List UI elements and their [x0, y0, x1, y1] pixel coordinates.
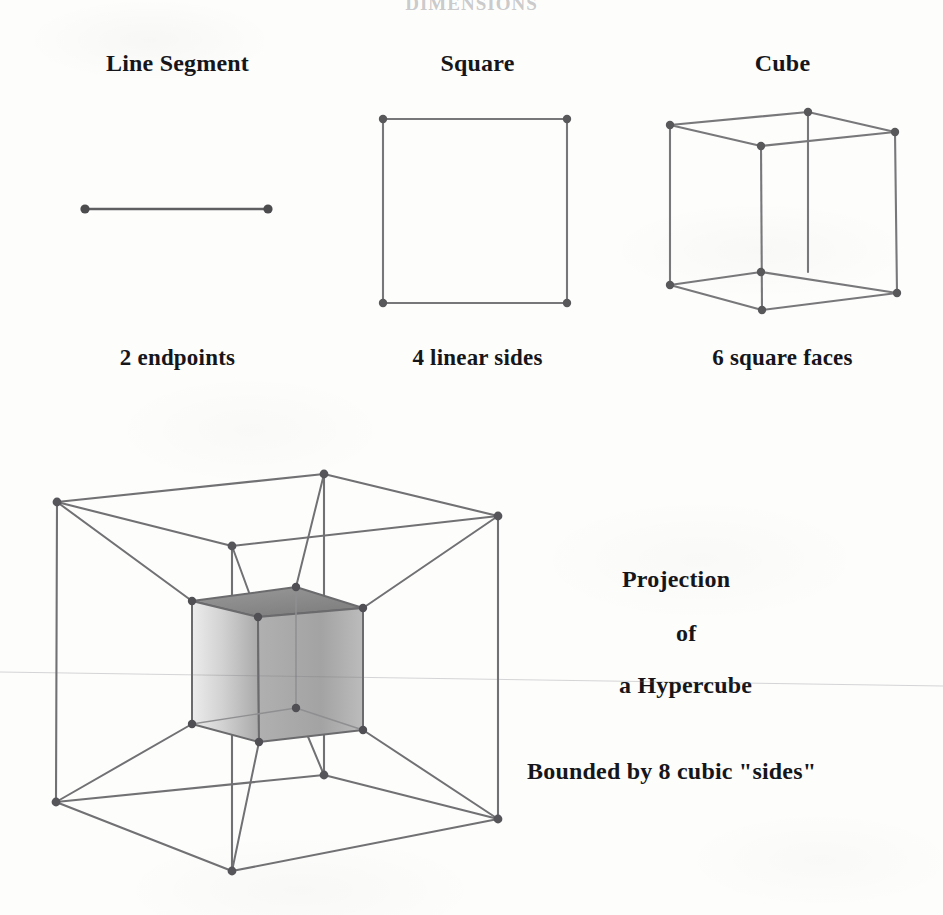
cube-edge-bottom-front-right	[762, 293, 897, 310]
vertex-dot	[563, 115, 571, 123]
cube-edge-bottom-back-right	[761, 272, 897, 293]
vertex-dot	[379, 299, 387, 307]
cube-edge-top-front-right	[761, 132, 895, 146]
hypercube-title-line-1: Projection	[622, 566, 730, 593]
heading-line-segment: Line Segment	[60, 50, 295, 77]
vertex-dot	[666, 121, 674, 129]
vertex-dot	[320, 771, 329, 780]
vertex-dot	[758, 306, 766, 314]
heading-square: Square	[360, 50, 595, 77]
outer-edge-top-front-right	[232, 516, 498, 546]
cut-off-page-title: DIMENSIONS	[0, 0, 943, 15]
vertex-dot	[80, 204, 89, 213]
cube-edge-vertical-front	[761, 146, 762, 310]
cube-edge-bottom-front-left	[670, 285, 762, 310]
vertex-dot	[53, 498, 62, 507]
hypercube-title-line-2: of	[676, 620, 696, 647]
vertex-dot	[228, 542, 237, 551]
connect-edge-bottom-right	[363, 730, 498, 819]
vertex-dot	[188, 720, 196, 728]
cube-edge-bottom-back-left	[670, 272, 761, 285]
vertex-dot	[893, 289, 901, 297]
caption-square: 4 linear sides	[360, 345, 595, 371]
vertex-dot	[188, 597, 196, 605]
vertex-dot	[292, 704, 300, 712]
vertex-dot	[494, 815, 503, 824]
vertex-dot	[757, 268, 765, 276]
vertex-dot	[255, 738, 263, 746]
outer-edge-bottom-front-right	[232, 819, 498, 871]
connect-edge-top-back	[296, 474, 324, 587]
vertex-dot	[379, 115, 387, 123]
vertex-dot	[891, 128, 899, 136]
vertex-dot	[254, 613, 262, 621]
cube-figure	[645, 90, 920, 335]
outer-edge-top-back-left	[57, 474, 324, 502]
cube-edge-top-back-left	[670, 112, 808, 125]
cube-edge-top-front-left	[670, 125, 761, 146]
outer-edge-top-front-left	[57, 502, 232, 546]
inner-cube-face-right	[258, 608, 363, 742]
vertex-dot	[320, 470, 329, 479]
vertex-dot	[666, 281, 674, 289]
hypercube-projection-figure	[20, 450, 540, 915]
cube-edge-vertical-right	[895, 132, 897, 293]
cube-vertices	[666, 108, 901, 314]
vertex-dot	[228, 867, 237, 876]
square-figure	[355, 95, 595, 335]
heading-cube: Cube	[665, 50, 900, 77]
vertex-dot	[563, 299, 571, 307]
outer-edge-bottom-front-left	[56, 802, 232, 871]
inner-cube-face-left	[192, 601, 259, 742]
vertex-dot	[494, 512, 503, 521]
vertex-dot	[757, 142, 765, 150]
connect-edge-top-left	[57, 502, 192, 601]
cube-edges	[670, 112, 897, 310]
caption-line-segment: 2 endpoints	[60, 345, 295, 371]
connect-edge-bottom-front	[232, 742, 259, 871]
vertex-dot	[359, 726, 367, 734]
vertex-dot	[804, 108, 812, 116]
vertex-dot	[263, 204, 272, 213]
outer-edge-bottom-back-right	[324, 775, 498, 819]
figure-page: DIMENSIONS Line Segment Square Cube	[0, 0, 943, 915]
hypercube-caption: Bounded by 8 cubic "sides"	[527, 758, 816, 785]
vertex-dot	[292, 583, 300, 591]
outer-edge-vertical-left	[56, 502, 57, 802]
caption-cube: 6 square faces	[665, 345, 900, 371]
square-vertices	[379, 115, 571, 307]
outer-edge-top-back-right	[324, 474, 498, 516]
line-segment-figure	[55, 180, 305, 240]
vertex-dot	[52, 798, 61, 807]
vertex-dot	[359, 604, 367, 612]
cube-edge-top-back-right	[808, 112, 895, 132]
hypercube-title-line-3: a Hypercube	[619, 672, 752, 699]
